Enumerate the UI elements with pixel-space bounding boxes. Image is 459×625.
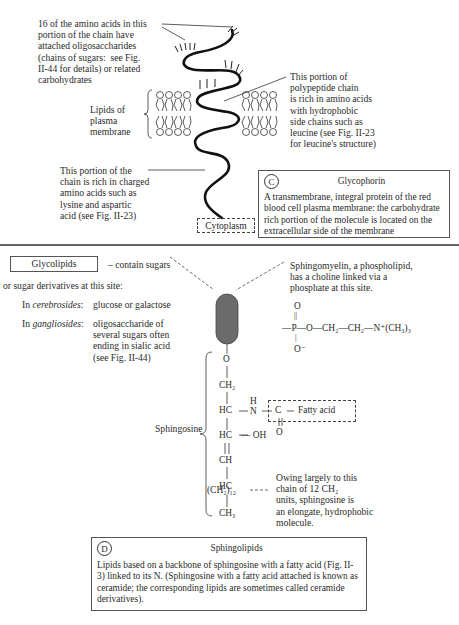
- backbone-ch2: CH₂: [219, 380, 235, 390]
- gangliosides-term: gangliosides: [32, 318, 81, 329]
- oligosaccharide-label: 16 of the amino acids in this portion of…: [38, 18, 147, 85]
- contain-sugars-text: – contain sugars: [108, 259, 170, 270]
- hydroxyl-group: — OH: [241, 430, 266, 440]
- head-group: [216, 294, 238, 344]
- carbonyl-oxygen: O: [276, 427, 283, 437]
- backbone-ch3: CH₃: [219, 508, 235, 518]
- gangliosides-row: In gangliosides:: [22, 318, 84, 329]
- backbone-hc-amine: HC: [219, 405, 232, 415]
- lipids-label: Lipids of plasma membrane: [90, 104, 131, 138]
- phosphate-bottom-oxygen: O⁻: [294, 343, 306, 354]
- panel-badge-d: D: [97, 541, 112, 556]
- cytoplasm-label: Cytoplasm: [198, 219, 254, 232]
- charged-label: This portion of the chain is rich in cha…: [60, 165, 149, 221]
- glycolipids-label: Glycolipids: [11, 257, 97, 271]
- glycophorin-title: Glycophorin: [279, 176, 444, 187]
- phosphate-top-oxygen: O: [294, 301, 301, 311]
- sphingolipids-description: Lipids based on a backbone of sphingosin…: [97, 560, 361, 606]
- glycophorin-box: C Glycophorin A transmembrane, integral …: [258, 170, 450, 238]
- sugar-derivatives-text: or sugar derivatives at this site:: [3, 280, 123, 291]
- hydrophobic-label: This portion of polypeptide chain is ric…: [290, 71, 376, 149]
- amine-group: H N: [250, 396, 257, 416]
- backbone-oxygen: O: [223, 354, 230, 364]
- sphingolipids-box: D Sphingolipids Lipids based on a backbo…: [91, 537, 367, 611]
- cerebrosides-row: In cerebrosides:: [22, 299, 83, 310]
- glycolipids-box: Glycolipids: [10, 256, 98, 272]
- sphingomyelin-label: Sphingomyelin, a phospholipid, has a cho…: [290, 260, 413, 294]
- backbone-ch: CH: [219, 455, 232, 465]
- phosphate-double-bond: ||: [294, 311, 297, 320]
- lipid-bilayer-right: [242, 92, 277, 136]
- glycophorin-diagram: [0, 0, 459, 625]
- panel-badge-c: C: [264, 174, 279, 189]
- phosphate-single-bond: |: [295, 333, 297, 342]
- hydrophobic-chain-note: Owing largely to this chain of 12 CH₂ un…: [276, 472, 373, 528]
- phosphocholine-chain: —P—O—CH₂—CH₂—N⁺(CH₃)₃: [282, 322, 411, 333]
- cytoplasm-box: Cytoplasm: [197, 218, 255, 233]
- gangliosides-value: oligosaccharide of several sugars often …: [93, 318, 170, 363]
- backbone-ch2-12: (CH₂)₁₂: [207, 485, 236, 495]
- glycophorin-description: A transmembrane, integral protein of the…: [264, 192, 444, 238]
- sphingolipids-title: Sphingolipids: [112, 543, 361, 554]
- sphingosine-label: Sphingosine: [155, 423, 202, 434]
- backbone-hc-hydroxyl: HC: [219, 430, 232, 440]
- cerebrosides-term: cerebrosides: [32, 299, 80, 310]
- lipid-bilayer-left: [156, 92, 191, 136]
- fatty-acid-box: [268, 400, 356, 422]
- cerebrosides-value: glucose or galactose: [93, 299, 171, 310]
